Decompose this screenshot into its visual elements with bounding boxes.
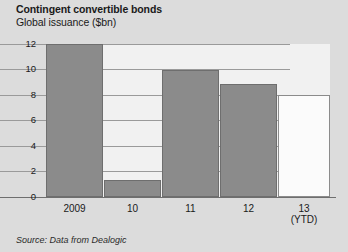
xtick-label-11: 11 xyxy=(162,203,219,214)
xtick-text-13: 13 xyxy=(298,203,309,214)
source-note: Source: Data from Dealogic xyxy=(16,235,127,245)
ytick-stub-4 xyxy=(36,146,46,147)
bar-13-ytd xyxy=(278,95,330,197)
ytick-stub-8 xyxy=(36,95,46,96)
chart-figure: Contingent convertible bonds Global issu… xyxy=(0,0,348,252)
xtick-text-12: 12 xyxy=(243,203,254,214)
xtick-label-12: 12 xyxy=(220,203,277,214)
xtick-sublabel-ytd: (YTD) xyxy=(278,214,330,225)
ytick-stub-10 xyxy=(36,69,46,70)
ytick-label-6: 6 xyxy=(6,115,36,125)
ytick-label-2: 2 xyxy=(6,166,36,176)
chart-title: Contingent convertible bonds xyxy=(16,3,162,15)
xtick-text-2009: 2009 xyxy=(63,203,85,214)
ytick-label-10: 10 xyxy=(6,64,36,74)
x-axis-line xyxy=(36,197,336,198)
ytick-label-0: 0 xyxy=(6,192,36,202)
y-axis: 12 10 8 6 4 2 0 xyxy=(0,0,36,252)
bar-2009 xyxy=(46,44,103,197)
xtick-label-2009: 2009 xyxy=(46,203,103,214)
ytick-stub-6 xyxy=(36,120,46,121)
bar-11 xyxy=(162,70,219,198)
xtick-label-10: 10 xyxy=(104,203,161,214)
ytick-stub-2 xyxy=(36,171,46,172)
ytick-label-12: 12 xyxy=(6,39,36,49)
bar-12 xyxy=(220,84,277,198)
bar-10 xyxy=(104,180,161,197)
ytick-label-4: 4 xyxy=(6,141,36,151)
bars-layer xyxy=(46,44,330,197)
xtick-text-10: 10 xyxy=(127,203,138,214)
ytick-label-8: 8 xyxy=(6,90,36,100)
ytick-stub-12 xyxy=(36,44,46,45)
xtick-text-11: 11 xyxy=(185,203,195,214)
xtick-label-13-ytd: 13 (YTD) xyxy=(278,203,330,225)
